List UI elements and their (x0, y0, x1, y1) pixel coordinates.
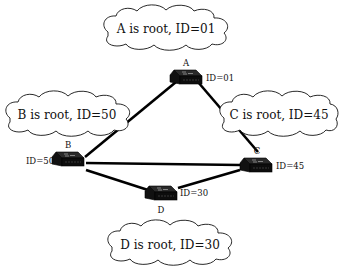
switch-icon (170, 70, 202, 84)
switch-icon (240, 158, 272, 172)
switch-a-name: A (182, 58, 190, 68)
network-diagram: A is root, ID=01 B is root, ID=50 C is r… (0, 0, 340, 273)
cloud-b: B is root, ID=50 (6, 91, 130, 136)
cloud-d: D is root, ID=30 (108, 220, 232, 265)
switch-d-name: D (158, 205, 165, 215)
cloud-b-text: B is root, ID=50 (18, 108, 117, 122)
switch-b-id: ID=50 (26, 156, 54, 166)
switch-c-name: C (254, 146, 261, 156)
switch-b-name: B (65, 140, 71, 150)
switch-c-id: ID=45 (276, 161, 304, 171)
cloud-d-text: D is root, ID=30 (120, 238, 220, 252)
switch-a[interactable]: A ID=01 (170, 58, 234, 84)
link-b-d (86, 170, 148, 190)
cloud-c: C is root, ID=45 (220, 91, 338, 136)
switch-d-id: ID=30 (180, 188, 208, 198)
switch-b[interactable]: B ID=50 (26, 140, 84, 166)
switch-c[interactable]: C ID=45 (240, 146, 304, 172)
switch-icon (52, 152, 84, 166)
cloud-c-text: C is root, ID=45 (229, 108, 328, 122)
switch-a-id: ID=01 (206, 73, 234, 83)
cloud-a-text: A is root, ID=01 (116, 22, 216, 36)
link-b-c (86, 163, 240, 165)
switch-d[interactable]: D ID=30 (145, 186, 208, 215)
cloud-a: A is root, ID=01 (104, 5, 228, 50)
switch-icon (145, 186, 177, 200)
link-c-d (178, 170, 240, 188)
